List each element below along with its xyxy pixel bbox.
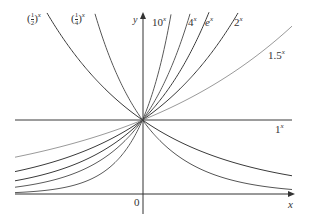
label-half-x: (12)x bbox=[27, 12, 41, 27]
origin-label: 0 bbox=[134, 197, 140, 208]
label-4-x: 4x bbox=[188, 16, 197, 28]
exponential-functions-chart: (12)x (14)x y 10x 4x ex 2x 1.5x 1x 0 x bbox=[0, 0, 309, 221]
curve-14x bbox=[95, 14, 292, 190]
curve-ex bbox=[15, 12, 209, 181]
label-2-x: 2x bbox=[234, 16, 243, 28]
label-1.5-x: 1.5x bbox=[268, 49, 285, 61]
curve-1.5x bbox=[15, 26, 292, 157]
label-e-x: ex bbox=[205, 16, 213, 28]
plot-area bbox=[0, 0, 309, 221]
y-axis-arrow-icon bbox=[140, 12, 146, 19]
curve-4x bbox=[15, 14, 190, 187]
curve-2x bbox=[15, 13, 238, 172]
label-10-x: 10x bbox=[152, 16, 166, 28]
x-axis-arrow-icon bbox=[288, 191, 295, 197]
label-1-x: 1x bbox=[275, 123, 284, 135]
y-axis-label: y bbox=[133, 15, 137, 25]
label-quarter-x: (14)x bbox=[71, 12, 85, 27]
x-axis-label: x bbox=[288, 199, 293, 210]
curves bbox=[15, 12, 292, 192]
